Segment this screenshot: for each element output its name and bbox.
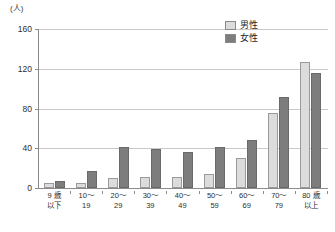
bar-male (140, 177, 150, 188)
legend-item-female: 女性 (225, 33, 258, 44)
bar-female (247, 140, 257, 188)
x-tick-label-line2: 以上 (288, 201, 334, 211)
bar-male (268, 113, 278, 188)
x-axis-labels: 9 歳以下10〜1920〜2930〜3940〜4950〜5960〜6970〜79… (38, 191, 327, 231)
bar-male (204, 174, 214, 188)
x-tick-label-line1: 20〜 (111, 191, 126, 200)
x-tick-label-line1: 50〜 (207, 191, 222, 200)
bar-group (70, 29, 102, 188)
bar-female (55, 181, 65, 188)
legend-label-male: 男性 (240, 20, 258, 31)
bar-female (311, 73, 321, 188)
y-tick-label-40: 40 (2, 144, 32, 152)
bar-female (215, 147, 225, 188)
y-tick-label-0: 0 (2, 184, 32, 192)
x-tick-label-line1: 60〜 (239, 191, 254, 200)
x-tick-label-line1: 70〜 (271, 191, 286, 200)
bar-group (166, 29, 198, 188)
y-tick-label-160: 160 (2, 25, 32, 33)
bar-group (231, 29, 263, 188)
x-tick-label-line1: 9 歳 (47, 191, 60, 200)
bar-male (300, 62, 310, 188)
bar-male (172, 177, 182, 188)
x-tick-label-line1: 80 歳 (302, 191, 319, 200)
bar-groups (38, 29, 327, 188)
x-tick-label: 80 歳以上 (288, 191, 334, 211)
bar-male (236, 158, 246, 188)
bar-group (263, 29, 295, 188)
chart-legend: 男性 女性 (225, 20, 258, 46)
x-tick-label-line1: 40〜 (175, 191, 190, 200)
bar-female (183, 152, 193, 188)
bar-female (279, 97, 289, 188)
bar-female (87, 171, 97, 188)
bar-group (38, 29, 70, 188)
bar-group (102, 29, 134, 188)
bar-female (119, 147, 129, 188)
bar-group (295, 29, 327, 188)
legend-label-female: 女性 (240, 33, 258, 44)
y-tick-label-120: 120 (2, 65, 32, 73)
bar-female (151, 149, 161, 188)
bar-male (76, 183, 86, 188)
y-axis-unit-label: (人) (10, 2, 23, 13)
x-tick-label-line1: 10〜 (78, 191, 93, 200)
legend-item-male: 男性 (225, 20, 258, 31)
legend-swatch-male-icon (225, 21, 236, 30)
x-tick-label-line1: 30〜 (143, 191, 158, 200)
y-tick-mark-0 (35, 188, 38, 189)
bar-male (44, 183, 54, 188)
y-tick-label-80: 80 (2, 105, 32, 113)
x-tick-mark (327, 191, 328, 194)
bar-group (199, 29, 231, 188)
legend-swatch-female-icon (225, 34, 236, 43)
bar-male (108, 178, 118, 188)
bar-group (134, 29, 166, 188)
bar-chart: (人) 04080120160 9 歳以下10〜1920〜2930〜3940〜4… (0, 0, 335, 232)
